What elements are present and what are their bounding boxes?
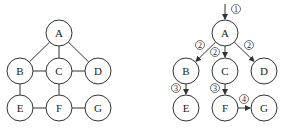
node-E: E xyxy=(173,95,199,121)
node-C: C xyxy=(46,58,72,84)
node-B: B xyxy=(173,58,199,84)
node-D: D xyxy=(251,58,277,84)
svg-text:3: 3 xyxy=(213,84,217,93)
node-B: B xyxy=(7,58,33,84)
svg-text:1: 1 xyxy=(234,5,238,14)
node-label: D xyxy=(94,65,102,77)
node-label: A xyxy=(221,27,229,39)
edge-A-B xyxy=(29,42,49,62)
diagram-canvas: ABCDEFG ABCDEFG1222334 xyxy=(0,0,284,129)
node-label: E xyxy=(183,102,190,114)
node-label: B xyxy=(182,65,189,77)
node-F: F xyxy=(46,95,72,121)
node-label: D xyxy=(260,65,268,77)
node-label: F xyxy=(56,102,62,114)
node-label: C xyxy=(221,65,228,77)
node-label: B xyxy=(16,65,23,77)
edge-A-D xyxy=(68,42,88,62)
step-number-label: 2 xyxy=(196,41,205,50)
node-label: A xyxy=(55,27,63,39)
node-A: A xyxy=(46,20,72,46)
svg-text:3: 3 xyxy=(174,84,178,93)
node-A: A xyxy=(212,20,238,46)
svg-text:4: 4 xyxy=(242,95,246,104)
node-D: D xyxy=(85,58,111,84)
node-F: F xyxy=(212,95,238,121)
step-number-label: 4 xyxy=(240,95,249,104)
node-C: C xyxy=(212,58,238,84)
step-number-label: 2 xyxy=(245,41,254,50)
step-number-label: 3 xyxy=(211,84,220,93)
step-number-label: 1 xyxy=(232,5,241,14)
node-label: G xyxy=(94,102,102,114)
node-label: C xyxy=(55,65,62,77)
node-G: G xyxy=(251,95,277,121)
svg-text:2: 2 xyxy=(247,41,251,50)
svg-text:2: 2 xyxy=(213,48,217,57)
node-E: E xyxy=(7,95,33,121)
node-G: G xyxy=(85,95,111,121)
edge-A-D xyxy=(234,42,254,61)
node-label: E xyxy=(17,102,24,114)
step-number-label: 3 xyxy=(172,84,181,93)
undirected-graph: ABCDEFG xyxy=(7,20,111,121)
svg-text:2: 2 xyxy=(198,41,202,50)
bfs-traversal-graph: ABCDEFG1222334 xyxy=(172,4,278,121)
node-label: F xyxy=(222,102,228,114)
node-label: G xyxy=(260,102,268,114)
step-number-label: 2 xyxy=(211,48,220,57)
